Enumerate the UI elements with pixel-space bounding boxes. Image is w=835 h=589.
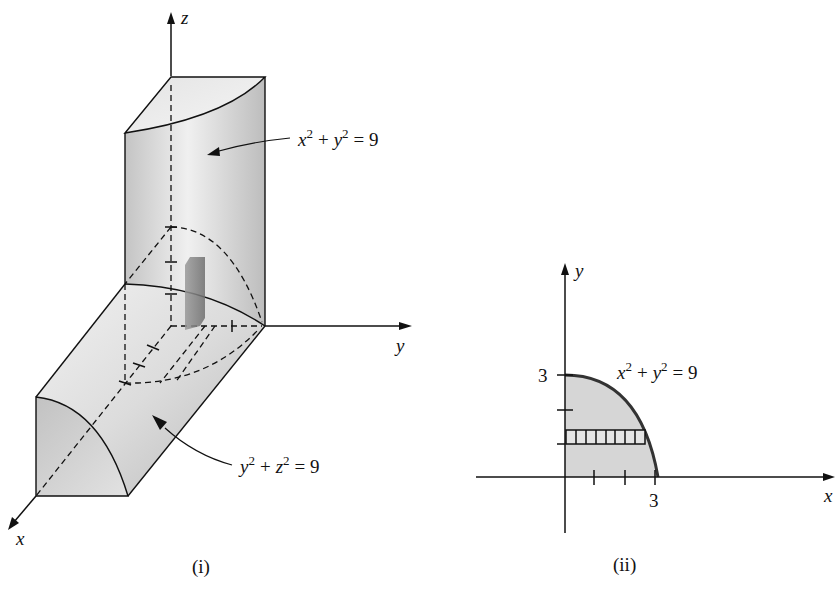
figure-i-caption: (i) <box>192 556 210 578</box>
circle-equation: x2+y2= 9 <box>616 359 698 383</box>
strip <box>566 430 645 444</box>
x-axis <box>14 496 36 522</box>
y-axis-2d-arrow-icon <box>561 263 569 275</box>
x-axis-label: x <box>15 528 25 549</box>
figure-i: z <box>8 7 412 578</box>
figure-canvas: z <box>0 0 835 589</box>
z-axis-arrow-icon <box>167 12 175 24</box>
y-tick-label-3: 3 <box>538 365 548 386</box>
figure-ii-caption: (ii) <box>613 554 636 576</box>
volume-element-bar <box>185 257 205 330</box>
x-axis-2d-arrow-icon <box>823 473 835 481</box>
z-axis-label: z <box>180 7 189 28</box>
figure-ii: x y 3 3 x2+y2= 9 (ii) <box>476 260 835 576</box>
x-tick-label-3: 3 <box>649 490 659 511</box>
x-axis-2d-label: x <box>823 485 833 506</box>
y-axis-label: y <box>394 335 405 356</box>
y-axis-arrow-icon <box>399 322 412 330</box>
y-axis-2d-label: y <box>573 260 584 281</box>
horizontal-cylinder-equation: y2+z2= 9 <box>238 453 320 477</box>
vertical-cylinder-equation: x2+y2= 9 <box>297 126 379 150</box>
